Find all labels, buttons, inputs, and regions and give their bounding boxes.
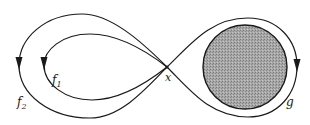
basepoint-x xyxy=(165,65,168,68)
arrow-down-icon xyxy=(16,57,23,70)
figure-eight-diagram: f1 f2 x g xyxy=(0,0,310,125)
label-f1: f1 xyxy=(51,73,62,89)
label-x: x xyxy=(165,71,172,84)
label-g: g xyxy=(286,95,294,109)
arrow-down-icon xyxy=(41,57,48,70)
arrow-down-icon xyxy=(294,59,301,72)
label-f2: f2 xyxy=(16,95,27,111)
shaded-disk xyxy=(203,25,287,109)
loop-f2 xyxy=(19,14,167,118)
loop-f1 xyxy=(44,34,167,100)
